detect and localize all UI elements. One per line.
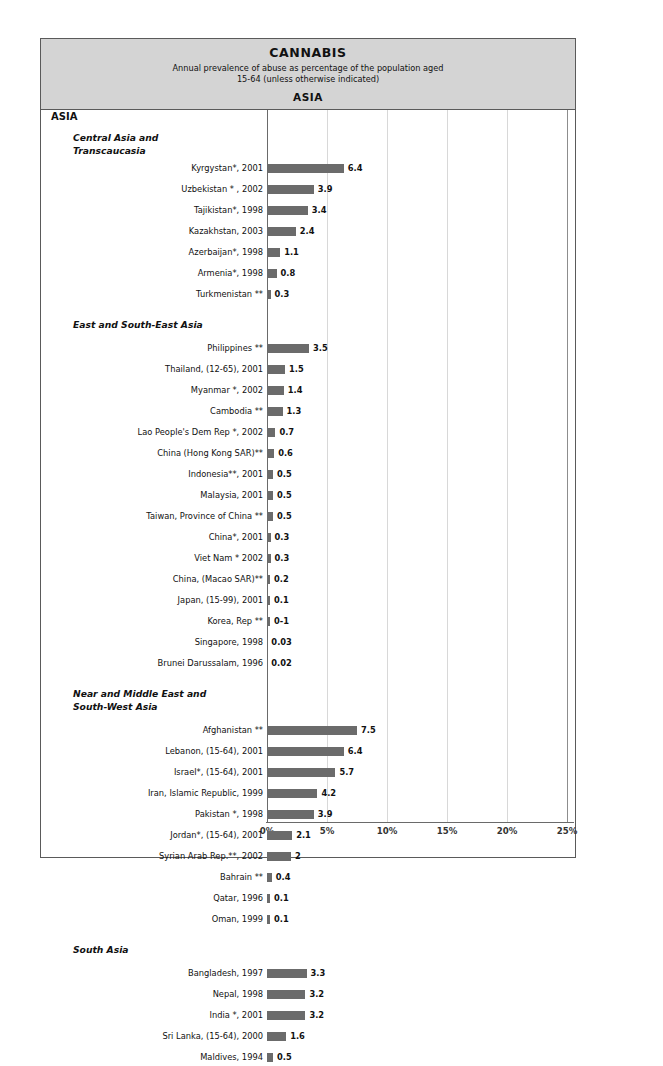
bar-label: Afghanistan ** bbox=[41, 725, 263, 736]
bar-row[interactable]: Turkmenistan **0.3 bbox=[41, 285, 575, 306]
bar-label: Myanmar *, 2002 bbox=[41, 385, 263, 396]
bar-row[interactable]: Sri Lanka, (15-64), 20001.6 bbox=[41, 1027, 575, 1048]
bar-row[interactable]: Singapore, 19980.03 bbox=[41, 633, 575, 654]
bar-label: Oman, 1999 bbox=[41, 914, 263, 925]
bar-row[interactable]: Syrian Arab Rep.**, 20022 bbox=[41, 847, 575, 868]
bar-value-label: 2.1 bbox=[296, 830, 311, 841]
bar-row[interactable]: Thailand, (12-65), 20011.5 bbox=[41, 360, 575, 381]
bar-label: China, (Macao SAR)** bbox=[41, 574, 263, 585]
bar-row[interactable]: China, (Macao SAR)**0.2 bbox=[41, 570, 575, 591]
bar-label: Lebanon, (15-64), 2001 bbox=[41, 746, 263, 757]
bar-row[interactable]: Iran, Islamic Republic, 19994.2 bbox=[41, 784, 575, 805]
bar-label: Lao People's Dem Rep *, 2002 bbox=[41, 427, 263, 438]
bar bbox=[267, 533, 271, 542]
bar-label: Bangladesh, 1997 bbox=[41, 968, 263, 979]
bar-row[interactable]: Armenia*, 19980.8 bbox=[41, 264, 575, 285]
bar-row[interactable]: China (Hong Kong SAR)**0.6 bbox=[41, 444, 575, 465]
bar-value-label: 1.5 bbox=[289, 364, 304, 375]
bar-value-label: 2.4 bbox=[300, 226, 315, 237]
bar-value-label: 2 bbox=[295, 851, 301, 862]
bar bbox=[267, 596, 270, 605]
bar-value-label: 0.03 bbox=[271, 637, 291, 648]
region-label: ASIA bbox=[41, 110, 575, 124]
bar-value-label: 0-1 bbox=[274, 616, 289, 627]
bar bbox=[267, 512, 273, 521]
bar-label: Bahrain ** bbox=[41, 872, 263, 883]
bar bbox=[267, 810, 314, 819]
bar-label: Armenia*, 1998 bbox=[41, 268, 263, 279]
bar-row[interactable]: Bangladesh, 19973.3 bbox=[41, 964, 575, 985]
bar-label: Nepal, 1998 bbox=[41, 989, 263, 1000]
bar-row[interactable]: China*, 20010.3 bbox=[41, 528, 575, 549]
bar bbox=[267, 428, 275, 437]
bar-row[interactable]: Oman, 19990.1 bbox=[41, 910, 575, 931]
bar-value-label: 3.9 bbox=[318, 184, 333, 195]
bar bbox=[267, 269, 277, 278]
bar-row[interactable]: Jordan*, (15-64), 20012.1 bbox=[41, 826, 575, 847]
bar-row[interactable]: Nepal, 19983.2 bbox=[41, 985, 575, 1006]
bar-value-label: 0.3 bbox=[275, 553, 290, 564]
bar-row[interactable]: Viet Nam * 20020.3 bbox=[41, 549, 575, 570]
bar-value-label: 0.5 bbox=[277, 1052, 292, 1063]
bar-row[interactable]: Azerbaijan*, 19981.1 bbox=[41, 243, 575, 264]
bar-value-label: 6.4 bbox=[348, 746, 363, 757]
bar bbox=[267, 990, 305, 999]
section-title: Near and Middle East and South-West Asia bbox=[41, 687, 575, 713]
bar-row[interactable]: Israel*, (15-64), 20015.7 bbox=[41, 763, 575, 784]
chart-plot-area: ASIA Central Asia and TranscaucasiaKyrgy… bbox=[41, 110, 575, 858]
bar-label: Cambodia ** bbox=[41, 406, 263, 417]
bar bbox=[267, 449, 274, 458]
bar-value-label: 0.02 bbox=[271, 658, 291, 669]
bar-value-label: 3.2 bbox=[309, 1010, 324, 1021]
bar-label: Syrian Arab Rep.**, 2002 bbox=[41, 851, 263, 862]
bar-row[interactable]: Afghanistan **7.5 bbox=[41, 721, 575, 742]
bar-label: Turkmenistan ** bbox=[41, 289, 263, 300]
bar bbox=[267, 915, 270, 924]
bar-row[interactable]: Brunei Darussalam, 19960.02 bbox=[41, 654, 575, 675]
bar-value-label: 0.5 bbox=[277, 490, 292, 501]
bar bbox=[267, 873, 272, 882]
bar-label: Azerbaijan*, 1998 bbox=[41, 247, 263, 258]
bar-row[interactable]: India *, 20013.2 bbox=[41, 1006, 575, 1027]
section-spacer bbox=[41, 306, 575, 318]
bar bbox=[267, 852, 291, 861]
bar-row[interactable]: Cambodia **1.3 bbox=[41, 402, 575, 423]
bar-value-label: 0.1 bbox=[274, 893, 289, 904]
chart-subtitle-line2: 15-64 (unless otherwise indicated) bbox=[49, 74, 567, 85]
bar-label: Qatar, 1996 bbox=[41, 893, 263, 904]
bar-row[interactable]: Pakistan *, 19983.9 bbox=[41, 805, 575, 826]
bar-row[interactable]: Indonesia**, 20010.5 bbox=[41, 465, 575, 486]
bar bbox=[267, 344, 309, 353]
bar-row[interactable]: Kyrgystan*, 20016.4 bbox=[41, 159, 575, 180]
bar bbox=[267, 768, 335, 777]
bar-row[interactable]: Qatar, 19960.1 bbox=[41, 889, 575, 910]
section-spacer bbox=[41, 675, 575, 687]
bar-row[interactable]: Japan, (15-99), 20010.1 bbox=[41, 591, 575, 612]
bar-label: Malaysia, 2001 bbox=[41, 490, 263, 501]
bar-row[interactable]: Tajikistan*, 19983.4 bbox=[41, 201, 575, 222]
bar bbox=[267, 894, 270, 903]
bar-row[interactable]: Lebanon, (15-64), 20016.4 bbox=[41, 742, 575, 763]
bar-label: Taiwan, Province of China ** bbox=[41, 511, 263, 522]
bar-value-label: 0.1 bbox=[274, 595, 289, 606]
bar-row[interactable]: Lao People's Dem Rep *, 20020.7 bbox=[41, 423, 575, 444]
bar-value-label: 0.6 bbox=[278, 448, 293, 459]
section-gap bbox=[41, 713, 575, 721]
bar-row[interactable]: Bahrain **0.4 bbox=[41, 868, 575, 889]
bar-row[interactable]: Myanmar *, 20021.4 bbox=[41, 381, 575, 402]
bar-label: Philippines ** bbox=[41, 343, 263, 354]
chart-header: CANNABIS Annual prevalence of abuse as p… bbox=[41, 39, 575, 110]
bar-label: Japan, (15-99), 2001 bbox=[41, 595, 263, 606]
bar-row[interactable]: Uzbekistan * , 20023.9 bbox=[41, 180, 575, 201]
bar bbox=[267, 554, 271, 563]
bar-row[interactable]: Korea, Rep **0-1 bbox=[41, 612, 575, 633]
bar-label: Pakistan *, 1998 bbox=[41, 809, 263, 820]
chart-frame: CANNABIS Annual prevalence of abuse as p… bbox=[40, 38, 576, 858]
bar-value-label: 0.7 bbox=[279, 427, 294, 438]
bar-row[interactable]: Taiwan, Province of China **0.5 bbox=[41, 507, 575, 528]
bar-row[interactable]: Maldives, 19940.5 bbox=[41, 1048, 575, 1066]
bar-row[interactable]: Philippines **3.5 bbox=[41, 339, 575, 360]
bar-row[interactable]: Malaysia, 20010.5 bbox=[41, 486, 575, 507]
chart-subtitle-line1: Annual prevalence of abuse as percentage… bbox=[49, 63, 567, 74]
bar-row[interactable]: Kazakhstan, 20032.4 bbox=[41, 222, 575, 243]
